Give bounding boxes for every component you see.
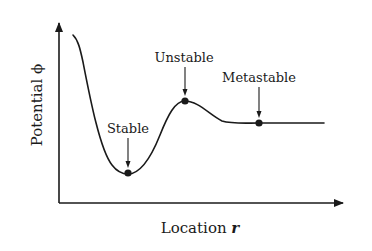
stable-arrow-icon bbox=[126, 138, 131, 168]
potential-energy-diagram: Stable Unstable Metastable Location r Po… bbox=[0, 0, 372, 251]
y-axis-label: Potential ϕ bbox=[28, 64, 46, 147]
metastable-arrow-icon bbox=[257, 87, 262, 118]
stable-label: Stable bbox=[107, 121, 149, 136]
stable-point-marker bbox=[124, 169, 131, 176]
metastable-point-marker bbox=[255, 119, 262, 126]
unstable-label: Unstable bbox=[154, 50, 213, 65]
unstable-point-marker bbox=[181, 97, 188, 104]
metastable-label: Metastable bbox=[222, 70, 296, 85]
unstable-arrow-icon bbox=[183, 67, 188, 96]
x-axis-label: Location r bbox=[161, 219, 241, 237]
